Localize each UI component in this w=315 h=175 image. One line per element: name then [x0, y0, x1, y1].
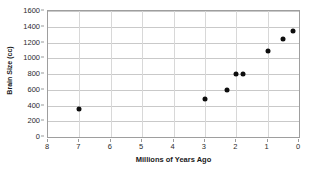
data-point [224, 87, 229, 92]
x-axis-tick-label: 2 [233, 142, 237, 151]
x-axis-tick-mark [141, 139, 142, 142]
y-axis-tick-mark [41, 41, 44, 42]
x-axis-tick-mark [47, 139, 48, 142]
x-axis-tick-label: 7 [76, 142, 80, 151]
data-point [234, 72, 239, 77]
y-axis-tick-mark [41, 136, 44, 137]
x-axis-tick-label: 6 [108, 142, 112, 151]
y-axis-tick-mark [41, 25, 44, 26]
y-axis-title-text: Brain Size (cc) [6, 46, 13, 94]
x-axis-tick-mark [267, 139, 268, 142]
data-point [202, 97, 207, 102]
x-axis-tick-label: 1 [265, 142, 269, 151]
x-axis-tick-label: 5 [139, 142, 143, 151]
x-axis-tick-mark [235, 139, 236, 142]
data-point [281, 37, 286, 42]
plot-area [47, 10, 300, 138]
gridline-vertical [142, 11, 143, 137]
x-axis-tick-mark [110, 139, 111, 142]
x-axis-tick-mark [204, 139, 205, 142]
y-axis-tick-mark [41, 73, 44, 74]
y-axis-tick-label: 400 [27, 100, 40, 109]
x-axis-tick-mark [298, 139, 299, 142]
scatter-chart: Brain Size (cc) 020040060080010001200140… [0, 0, 315, 175]
gridline-vertical [174, 11, 175, 137]
y-axis-tick-mark [41, 120, 44, 121]
x-axis-tick-label: 0 [296, 142, 300, 151]
gridline-vertical [205, 11, 206, 137]
y-axis-tick-label: 1600 [23, 6, 40, 15]
y-axis-tick-label: 600 [27, 84, 40, 93]
data-point [265, 49, 270, 54]
y-axis-tick-label: 1400 [23, 21, 40, 30]
y-axis-tick-label: 200 [27, 116, 40, 125]
y-axis-tick-mark [41, 10, 44, 11]
x-axis-tick-mark [173, 139, 174, 142]
y-axis-tick-label: 1200 [23, 37, 40, 46]
x-axis-tick-label: 8 [45, 142, 49, 151]
x-axis-tick-labels: 876543210 [47, 139, 300, 153]
data-point [240, 72, 245, 77]
x-axis-title: Millions of Years Ago [47, 155, 300, 164]
data-point [290, 29, 295, 34]
gridline-vertical [268, 11, 269, 137]
x-axis-tick-mark [78, 139, 79, 142]
y-axis-tick-label: 1000 [23, 53, 40, 62]
data-point [77, 107, 82, 112]
y-axis-tick-mark [41, 104, 44, 105]
y-axis-tick-mark [41, 57, 44, 58]
x-axis-tick-label: 4 [170, 142, 174, 151]
y-axis-tick-mark [41, 88, 44, 89]
y-axis-tick-label: 800 [27, 69, 40, 78]
y-axis-tick-labels: 02004006008001000120014001600 [16, 10, 44, 138]
y-axis-tick-label: 0 [36, 132, 40, 141]
gridline-vertical [111, 11, 112, 137]
x-axis-tick-label: 3 [202, 142, 206, 151]
y-axis-title: Brain Size (cc) [2, 0, 16, 140]
gridline-vertical [79, 11, 80, 137]
